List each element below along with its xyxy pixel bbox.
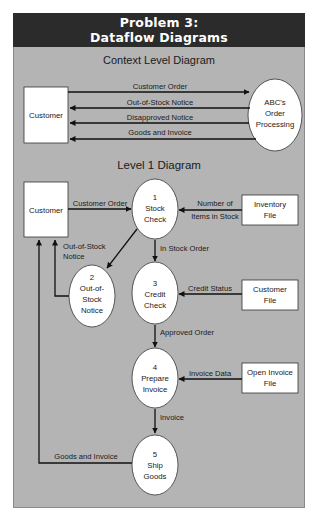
svg-text:Invoice: Invoice [160, 413, 184, 422]
svg-text:Check: Check [144, 301, 166, 310]
svg-text:1: 1 [153, 193, 157, 202]
svg-text:Disapproved Notice: Disapproved Notice [127, 113, 193, 122]
process-5-ship-goods: 5 Ship Goods [132, 435, 178, 495]
dataflow-diagram: Customer ABC's Order Processing Customer… [0, 0, 315, 518]
svg-text:Credit: Credit [145, 290, 167, 299]
flow-invoice-data: Invoice Data [179, 369, 242, 379]
svg-text:In Stock Order: In Stock Order [160, 244, 209, 253]
svg-text:Invoice: Invoice [143, 385, 168, 394]
flow-approved-order: Approved Order [155, 325, 214, 347]
svg-text:Customer: Customer [29, 206, 63, 215]
svg-text:Order: Order [265, 109, 285, 118]
flow-stock-to-notice [107, 229, 137, 268]
svg-text:Notice: Notice [81, 306, 103, 315]
svg-text:Check: Check [144, 215, 166, 224]
context-flow-customer-order: Customer Order [68, 82, 249, 92]
svg-text:ABC's: ABC's [264, 98, 286, 107]
svg-text:Ship: Ship [147, 461, 163, 470]
svg-text:3: 3 [153, 279, 157, 288]
svg-text:Open Invoice: Open Invoice [247, 368, 293, 377]
svg-text:File: File [264, 379, 277, 388]
svg-text:Inventory: Inventory [254, 200, 286, 209]
svg-text:4: 4 [153, 363, 158, 372]
svg-text:Out-of-: Out-of- [80, 284, 105, 293]
svg-text:Stock: Stock [82, 295, 102, 304]
level1-customer-entity: Customer [24, 182, 68, 237]
svg-text:Items in Stock: Items in Stock [191, 212, 239, 221]
process-2-out-of-stock-notice: 2 Out-of- Stock Notice [69, 265, 115, 327]
context-customer-label: Customer [29, 111, 63, 120]
svg-text:Goods: Goods [144, 472, 167, 481]
svg-text:Invoice Data: Invoice Data [189, 369, 232, 378]
context-flow-disapproved: Disapproved Notice [70, 113, 249, 123]
flow-invoice: Invoice [155, 409, 184, 433]
svg-text:Prepare: Prepare [141, 374, 169, 383]
svg-text:Customer Order: Customer Order [133, 82, 188, 91]
flow-customer-order: Customer Order [68, 199, 131, 209]
context-process-node: ABC's Order Processing [248, 79, 302, 151]
flow-number-of-items: Number of Items in Stock [179, 199, 242, 221]
svg-text:Approved Order: Approved Order [160, 328, 214, 337]
svg-text:Out-of-Stock: Out-of-Stock [63, 242, 106, 251]
process-4-prepare-invoice: 4 Prepare Invoice [132, 348, 178, 408]
svg-text:Customer: Customer [253, 285, 287, 294]
svg-text:Out-of-Stock Notice: Out-of-Stock Notice [127, 98, 193, 107]
process-3-credit-check: 3 Credit Check [132, 262, 178, 324]
svg-text:2: 2 [90, 273, 94, 282]
svg-text:Stock: Stock [145, 204, 165, 213]
svg-text:Number of: Number of [197, 199, 233, 208]
context-flow-out-of-stock: Out-of-Stock Notice [70, 98, 250, 108]
svg-text:File: File [264, 296, 277, 305]
svg-text:Customer Order: Customer Order [73, 199, 128, 208]
svg-text:Processing: Processing [256, 120, 295, 129]
svg-text:Notice: Notice [63, 252, 85, 261]
svg-text:File: File [264, 211, 277, 220]
store-inventory-file: Inventory File [242, 195, 298, 225]
store-customer-file: Customer File [242, 280, 298, 310]
svg-text:5: 5 [153, 450, 158, 459]
context-customer-entity: Customer [24, 87, 68, 143]
store-open-invoice-file: Open Invoice File [242, 363, 298, 393]
svg-text:Goods and Invoice: Goods and Invoice [54, 452, 117, 461]
svg-text:Goods and Invoice: Goods and Invoice [128, 128, 191, 137]
flow-in-stock-order: In Stock Order [155, 240, 209, 261]
flow-credit-status: Credit Status [179, 284, 242, 294]
process-1-stock-check: 1 Stock Check [132, 179, 178, 239]
context-flow-goods-invoice: Goods and Invoice [70, 128, 256, 139]
svg-text:Credit Status: Credit Status [188, 284, 232, 293]
